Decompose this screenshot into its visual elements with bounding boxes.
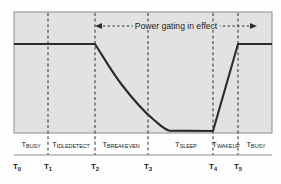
- phase-label-t-busy-1: TBUSY: [21, 141, 40, 149]
- tick-label-t1: T1: [44, 163, 52, 171]
- tick-label-t2: T2: [91, 163, 99, 171]
- phase-base: T: [212, 140, 217, 149]
- phase-base: T: [102, 140, 107, 149]
- tick-label-t0: T0: [13, 163, 21, 171]
- phase-label-t-wakeup: TWAKEUP: [212, 141, 240, 149]
- tick-label-t5: T5: [234, 163, 242, 171]
- tick-subscript: 2: [96, 166, 99, 172]
- tick-subscript: 0: [18, 166, 21, 172]
- phase-subscript: BUSY: [251, 143, 265, 149]
- tick-subscript: 5: [239, 166, 242, 172]
- power-gating-timing-figure: Power gating in effect TBUSY TIDLEDETECT…: [0, 0, 281, 184]
- phase-base: T: [52, 140, 57, 149]
- phase-base: T: [21, 140, 26, 149]
- tick-label-t4: T4: [209, 163, 217, 171]
- tick-subscript: 4: [214, 166, 217, 172]
- phase-subscript: WAKEUP: [217, 143, 240, 149]
- phase-base: T: [246, 140, 251, 149]
- phase-label-t-busy-2: TBUSY: [246, 141, 265, 149]
- phase-label-t-breakeven: TBREAKEVEN: [102, 141, 139, 149]
- tick-subscript: 3: [149, 166, 152, 172]
- phase-subscript: BREAKEVEN: [107, 143, 140, 149]
- tick-subscript: 1: [49, 166, 52, 172]
- phase-subscript: BUSY: [26, 143, 40, 149]
- power-gating-annotation-label: Power gating in effect: [133, 22, 220, 31]
- phase-label-t-sleep: TSLEEP: [175, 141, 197, 149]
- phase-base: T: [175, 140, 180, 149]
- phase-subscript: SLEEP: [180, 143, 197, 149]
- phase-label-t-idledetect: TIDLEDETECT: [52, 141, 90, 149]
- annotation-text: Power gating in effect: [135, 21, 218, 31]
- phase-subscript: IDLEDETECT: [57, 143, 90, 149]
- tick-label-t3: T3: [144, 163, 152, 171]
